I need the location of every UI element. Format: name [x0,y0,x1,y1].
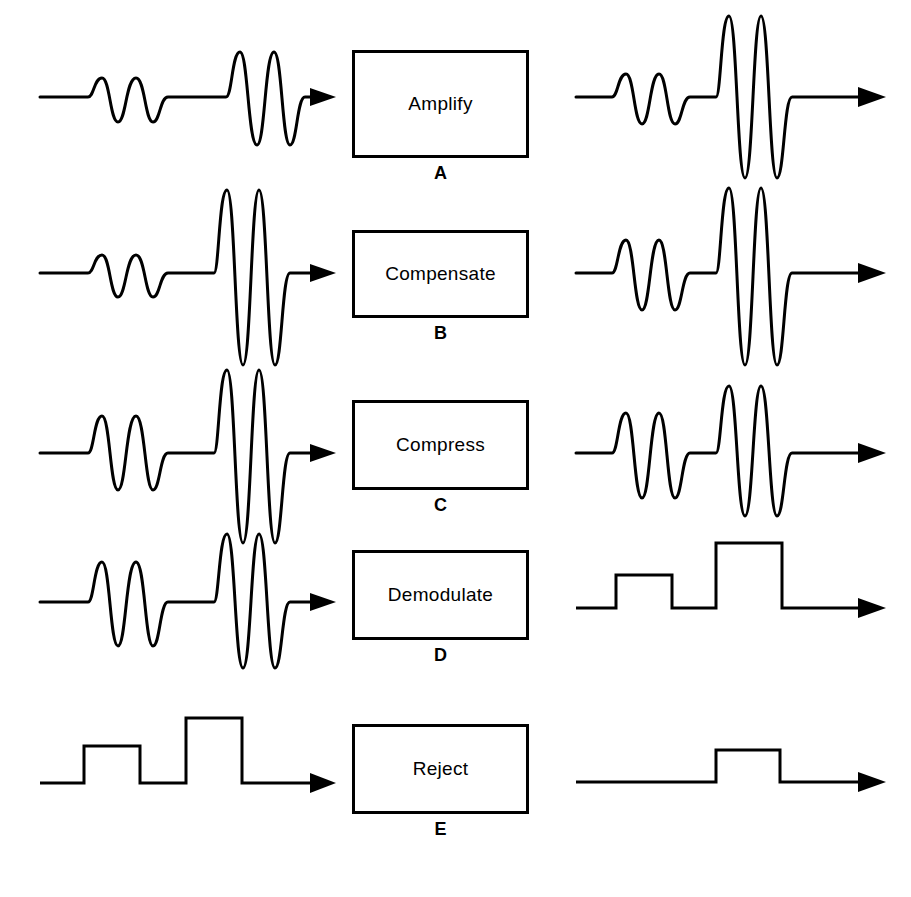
stage-e-output-waveform [576,688,896,868]
stage-row-b: Compensate B [0,180,911,360]
arrow-head-icon [858,598,886,618]
process-box-compensate[interactable]: Compensate [352,230,529,318]
process-box-compress-label: Compress [396,434,485,456]
stage-letter-c: C [352,495,529,516]
stage-d-input-waveform [14,518,334,698]
stage-b-input-waveform [14,180,334,360]
arrow-head-icon [310,444,336,462]
arrow-head-icon [858,772,886,792]
stage-c-input-waveform [14,358,334,538]
process-box-amplify-label: Amplify [408,93,472,115]
process-box-demodulate[interactable]: Demodulate [352,550,529,640]
arrow-head-icon [858,87,886,107]
stage-row-a: Amplify A [0,0,911,180]
stage-row-c: Compress C [0,358,911,538]
process-box-reject[interactable]: Reject [352,724,529,814]
stage-a-input-waveform [14,0,334,180]
stage-row-e: Reject E [0,688,911,868]
stage-e-input-waveform [14,688,334,868]
stage-letter-e: E [352,819,529,840]
arrow-head-icon [858,443,886,463]
stage-row-d: Demodulate D [0,518,911,698]
process-box-reject-label: Reject [413,758,469,780]
process-box-compress[interactable]: Compress [352,400,529,490]
arrow-head-icon [310,773,336,793]
arrow-head-icon [310,88,336,106]
process-box-demodulate-label: Demodulate [388,584,493,606]
arrow-head-icon [858,263,886,283]
signal-processing-diagram: Amplify A Compensate B [0,0,911,897]
arrow-head-icon [310,264,336,282]
stage-b-output-waveform [576,180,896,360]
arrow-head-icon [310,593,336,611]
process-box-compensate-label: Compensate [385,263,496,285]
stage-letter-d: D [352,645,529,666]
stage-c-output-waveform [576,358,896,538]
stage-a-output-waveform [576,0,896,180]
stage-letter-b: B [352,323,529,344]
process-box-amplify[interactable]: Amplify [352,50,529,158]
stage-d-output-waveform [576,518,896,698]
